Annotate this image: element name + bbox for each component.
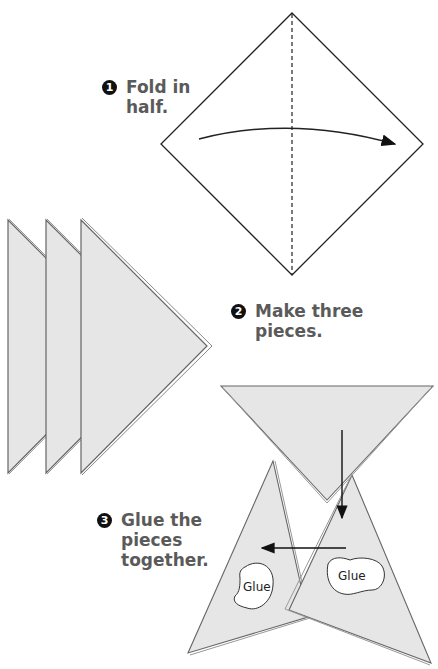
- step-2-badge: 2: [231, 304, 246, 319]
- step-3-instruction: 3 Glue the pieces together.: [97, 510, 209, 570]
- step-1-badge: 1: [102, 80, 117, 95]
- glue-label-left: Glue: [243, 580, 271, 594]
- step-2-instruction: 2 Make three pieces.: [231, 301, 363, 341]
- step-3-badge: 3: [97, 513, 112, 528]
- step2-three-pieces: [8, 218, 212, 475]
- step-1-instruction: 1 Fold in half.: [102, 77, 190, 117]
- origami-diagram: [0, 0, 438, 669]
- glue-label-right: Glue: [338, 569, 366, 583]
- step3-assembly: [188, 386, 433, 665]
- step1-square-paper: [161, 13, 423, 275]
